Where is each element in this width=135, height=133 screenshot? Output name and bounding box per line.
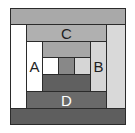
block-left-column (10, 24, 27, 109)
block-center-left (42, 57, 59, 75)
block-top-band (10, 8, 126, 25)
block-bottom-band (10, 108, 126, 125)
block-a: A (26, 41, 43, 92)
block-inner-top (42, 41, 91, 58)
log-cabin-diagram: CABD (0, 0, 135, 133)
block-b: B (90, 41, 107, 92)
block-inner-bottom (42, 74, 91, 92)
block-right-column (106, 24, 126, 109)
block-center-right (74, 57, 91, 75)
block-center (58, 57, 75, 75)
block-c: C (26, 24, 107, 42)
block-d: D (26, 91, 107, 109)
